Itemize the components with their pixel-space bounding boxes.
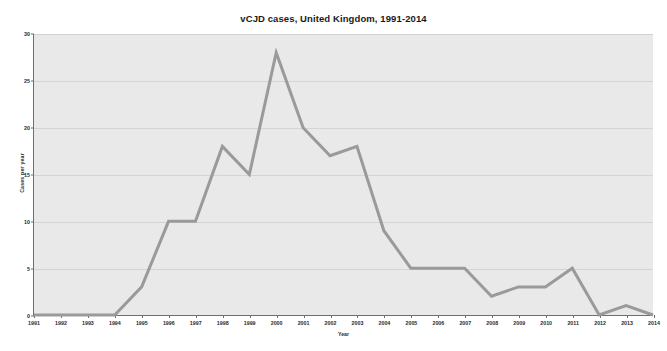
x-tick-label-1999: 1999 <box>244 320 256 326</box>
data-series-svg <box>34 34 653 315</box>
x-tick-mark-2007 <box>465 315 466 318</box>
y-tick-label-0: 0 <box>27 313 30 319</box>
x-tick-label-2012: 2012 <box>594 320 606 326</box>
x-tick-label-1998: 1998 <box>217 320 229 326</box>
x-tick-mark-2005 <box>411 315 412 318</box>
x-tick-mark-2000 <box>277 315 278 318</box>
chart-figure: vCJD cases, United Kingdom, 1991-2014 05… <box>0 0 667 351</box>
x-tick-label-2006: 2006 <box>432 320 444 326</box>
x-tick-label-1996: 1996 <box>163 320 175 326</box>
x-tick-mark-1997 <box>196 315 197 318</box>
x-tick-mark-2009 <box>519 315 520 318</box>
x-tick-mark-1999 <box>250 315 251 318</box>
x-tick-mark-1995 <box>142 315 143 318</box>
x-axis-label: Year <box>34 331 653 337</box>
x-tick-label-2004: 2004 <box>379 320 391 326</box>
x-tick-label-1997: 1997 <box>190 320 202 326</box>
x-tick-label-2008: 2008 <box>486 320 498 326</box>
x-tick-label-2001: 2001 <box>298 320 310 326</box>
x-tick-label-2002: 2002 <box>325 320 337 326</box>
x-tick-mark-2014 <box>654 315 655 318</box>
x-tick-label-2010: 2010 <box>540 320 552 326</box>
x-tick-label-2011: 2011 <box>567 320 579 326</box>
x-tick-label-1995: 1995 <box>136 320 148 326</box>
x-tick-mark-2004 <box>384 315 385 318</box>
x-tick-mark-2010 <box>546 315 547 318</box>
x-tick-mark-2006 <box>438 315 439 318</box>
x-tick-label-2003: 2003 <box>352 320 364 326</box>
x-tick-mark-1998 <box>223 315 224 318</box>
chart-title: vCJD cases, United Kingdom, 1991-2014 <box>0 13 667 24</box>
x-tick-label-2000: 2000 <box>271 320 283 326</box>
x-tick-mark-2008 <box>492 315 493 318</box>
x-tick-label-2014: 2014 <box>648 320 660 326</box>
x-tick-mark-1996 <box>169 315 170 318</box>
y-tick-label-30: 30 <box>24 31 30 37</box>
x-tick-label-1993: 1993 <box>82 320 94 326</box>
y-tick-label-10: 10 <box>24 219 30 225</box>
x-tick-mark-2002 <box>331 315 332 318</box>
x-tick-label-1992: 1992 <box>55 320 67 326</box>
x-tick-mark-2003 <box>357 315 358 318</box>
x-tick-label-1991: 1991 <box>28 320 40 326</box>
plot-area: 051015202530 199119921993199419951996199… <box>33 34 653 316</box>
y-tick-label-25: 25 <box>24 78 30 84</box>
y-axis-label: Cases per year <box>19 128 25 218</box>
x-tick-label-2013: 2013 <box>621 320 633 326</box>
x-tick-mark-2011 <box>573 315 574 318</box>
x-tick-mark-2001 <box>304 315 305 318</box>
y-tick-label-5: 5 <box>27 266 30 272</box>
x-tick-label-2005: 2005 <box>405 320 417 326</box>
line-series-vcjd-cases <box>34 53 653 315</box>
x-tick-label-2009: 2009 <box>513 320 525 326</box>
x-tick-label-2007: 2007 <box>459 320 471 326</box>
x-tick-mark-2013 <box>627 315 628 318</box>
x-tick-label-1994: 1994 <box>109 320 121 326</box>
